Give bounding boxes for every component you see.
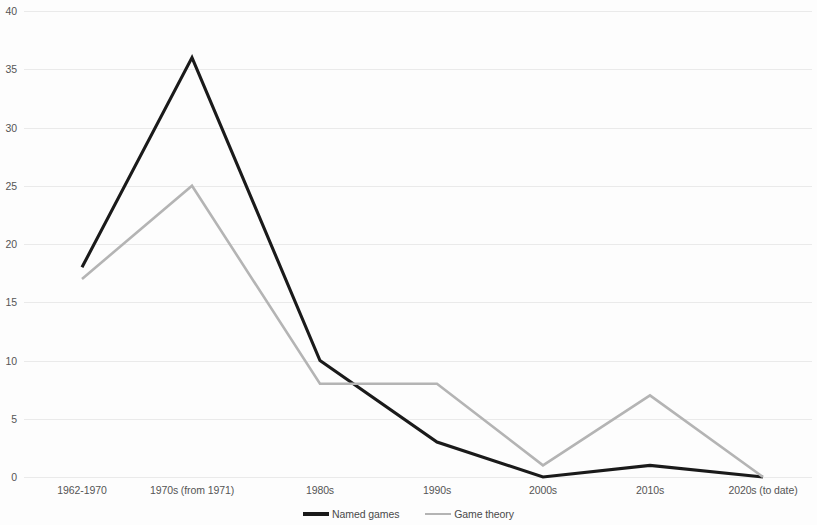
legend-item-named-games[interactable]: Named games	[303, 508, 399, 520]
y-tick-label: 40	[6, 5, 17, 17]
legend-swatch-icon	[303, 512, 329, 515]
y-tick-label: 0	[11, 471, 17, 483]
x-tick-label: 1980s	[306, 484, 334, 496]
y-axis: 0510152025303540	[0, 0, 24, 525]
y-tick-label: 20	[6, 238, 17, 250]
x-tick-label: 2000s	[529, 484, 557, 496]
x-tick-label: 1990s	[423, 484, 451, 496]
series-line-named-games	[82, 58, 763, 477]
plot-area	[24, 11, 812, 477]
y-tick-label: 30	[6, 122, 17, 134]
x-tick-label: 1970s (from 1971)	[150, 484, 234, 496]
line-chart: 0510152025303540 1962-19701970s (from 19…	[0, 0, 817, 525]
y-tick-label: 5	[11, 413, 17, 425]
gridline-0	[24, 477, 812, 478]
legend-swatch-icon	[425, 513, 451, 516]
x-tick-label: 2010s	[636, 484, 664, 496]
y-tick-label: 35	[6, 63, 17, 75]
y-tick-label: 10	[6, 355, 17, 367]
legend-label: Named games	[332, 508, 399, 520]
series-layer	[24, 11, 812, 477]
chart-legend: Named gamesGame theory	[0, 508, 817, 520]
y-tick-label: 25	[6, 180, 17, 192]
x-tick-label: 2020s (to date)	[728, 484, 797, 496]
y-tick-label: 15	[6, 296, 17, 308]
x-tick-label: 1962-1970	[57, 484, 106, 496]
legend-label: Game theory	[454, 508, 514, 520]
x-axis: 1962-19701970s (from 1971)1980s1990s2000…	[0, 484, 817, 502]
legend-item-game-theory[interactable]: Game theory	[425, 508, 514, 520]
